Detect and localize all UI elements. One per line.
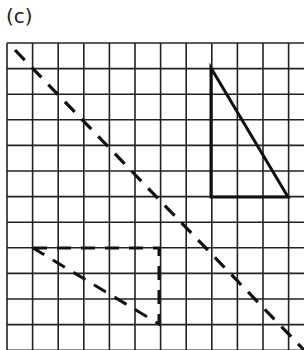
object-triangle <box>211 68 288 197</box>
grid-diagram <box>0 0 304 350</box>
image-triangle <box>33 248 159 324</box>
